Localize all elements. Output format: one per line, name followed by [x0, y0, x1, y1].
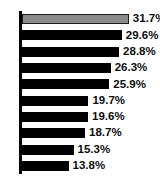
clipped-legend-strip: [0, 0, 160, 8]
bar-row: 19.6%: [22, 109, 160, 125]
bar-row: 25.9%: [22, 76, 160, 92]
bar-highlight: [22, 14, 129, 24]
bar: [22, 30, 122, 40]
plot-area: 31.7%29.6%28.8%26.3%25.9%19.7%19.6%18.7%…: [0, 11, 160, 183]
bar: [22, 79, 109, 89]
bar-value-label: 25.9%: [113, 79, 146, 91]
bar-value-label: 29.6%: [126, 30, 159, 42]
bar-chart: 31.7%29.6%28.8%26.3%25.9%19.7%19.6%18.7%…: [0, 0, 160, 183]
bar: [22, 128, 85, 138]
bar-row: 29.6%: [22, 27, 160, 43]
bar-value-label: 15.3%: [78, 144, 111, 156]
bar: [22, 161, 69, 171]
bar: [22, 96, 88, 106]
bar-value-label: 19.7%: [92, 95, 125, 107]
bar-row: 13.8%: [22, 158, 160, 174]
bar-row: 26.3%: [22, 60, 160, 76]
bar: [22, 112, 88, 122]
bar: [22, 47, 119, 57]
bar-value-label: 26.3%: [115, 62, 148, 74]
bar-series: 31.7%29.6%28.8%26.3%25.9%19.7%19.6%18.7%…: [22, 11, 160, 174]
bar: [22, 63, 111, 73]
bar-value-label: 31.7%: [133, 13, 160, 25]
bar-row: 28.8%: [22, 44, 160, 60]
bar-value-label: 18.7%: [89, 127, 122, 139]
bar-value-label: 19.6%: [92, 111, 125, 123]
bar-value-label: 28.8%: [123, 46, 156, 58]
bar-row: 15.3%: [22, 141, 160, 157]
bar: [22, 145, 74, 155]
bar-row: 31.7%: [22, 11, 160, 27]
bar-row: 19.7%: [22, 92, 160, 108]
bar-row: 18.7%: [22, 125, 160, 141]
bar-value-label: 13.8%: [73, 160, 106, 172]
